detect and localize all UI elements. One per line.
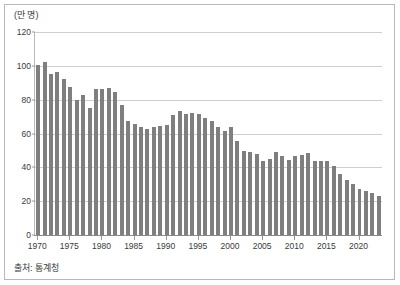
- bar: [88, 108, 92, 235]
- bar: [133, 124, 137, 235]
- bar-series: [35, 32, 382, 235]
- x-axis-tick-mark: [69, 236, 70, 240]
- bar: [364, 191, 368, 235]
- bar: [216, 127, 220, 235]
- bar: [332, 166, 336, 235]
- bar: [325, 161, 329, 235]
- bar: [358, 189, 362, 235]
- bar: [261, 161, 265, 235]
- bar: [300, 155, 304, 235]
- bar: [306, 153, 310, 235]
- y-axis-tick-label: 100: [17, 61, 31, 71]
- y-axis-tick-label: 40: [22, 162, 31, 172]
- bar: [81, 95, 85, 235]
- source-note: 출처: 통계청: [14, 261, 59, 274]
- x-axis-tick-label: 1990: [156, 241, 175, 251]
- bar: [229, 127, 233, 235]
- bar: [49, 74, 53, 235]
- x-axis-tick-label: 2005: [253, 241, 272, 251]
- bar: [113, 92, 117, 235]
- bar: [210, 121, 214, 235]
- x-axis-tick-label: 1980: [92, 241, 111, 251]
- bar: [377, 196, 381, 235]
- y-axis-unit-label: (만 명): [14, 8, 39, 21]
- x-axis-tick-mark: [198, 236, 199, 240]
- x-axis-tick-mark: [359, 236, 360, 240]
- x-axis-tick-mark: [326, 236, 327, 240]
- bar: [338, 174, 342, 235]
- bar: [43, 62, 47, 235]
- x-axis: 1970197519801985199019952000200520102015…: [34, 236, 382, 258]
- y-axis-tick-label: 20: [22, 196, 31, 206]
- y-axis-tick-label: 120: [17, 27, 31, 37]
- x-axis-tick-mark: [230, 236, 231, 240]
- bar: [145, 129, 149, 235]
- y-axis-tick-label: 80: [22, 95, 31, 105]
- bar: [345, 180, 349, 235]
- bar: [100, 89, 104, 235]
- bar: [94, 89, 98, 235]
- x-axis-tick-label: 1995: [188, 241, 207, 251]
- x-axis-tick-mark: [262, 236, 263, 240]
- bar: [370, 193, 374, 235]
- y-axis-tick-label: 60: [22, 129, 31, 139]
- x-axis-tick-label: 1985: [124, 241, 143, 251]
- y-axis-tick-label: 0: [26, 230, 31, 240]
- bar: [184, 114, 188, 235]
- x-axis-tick-label: 1975: [60, 241, 79, 251]
- bar: [55, 72, 59, 235]
- bar: [280, 156, 284, 235]
- bar: [75, 100, 79, 235]
- bar: [36, 65, 40, 235]
- bar: [68, 87, 72, 235]
- bar: [120, 105, 124, 235]
- x-axis-tick-mark: [134, 236, 135, 240]
- bar: [351, 184, 355, 235]
- plot-area: 020406080100120: [34, 32, 382, 236]
- bar: [158, 126, 162, 235]
- bar: [274, 152, 278, 235]
- bar: [139, 127, 143, 235]
- bar: [107, 88, 111, 235]
- x-axis-tick-label: 2000: [221, 241, 240, 251]
- bar: [242, 151, 246, 235]
- bar: [190, 113, 194, 235]
- bar: [171, 115, 175, 235]
- bar: [62, 79, 66, 235]
- x-axis-tick-label: 2010: [285, 241, 304, 251]
- bar: [203, 118, 207, 235]
- x-axis-tick-mark: [37, 236, 38, 240]
- bar: [235, 141, 239, 235]
- bar: [287, 160, 291, 235]
- x-axis-tick-label: 2020: [349, 241, 368, 251]
- bar: [248, 152, 252, 235]
- chart-figure: (만 명) 020406080100120 197019751980198519…: [0, 0, 400, 285]
- bar: [223, 131, 227, 235]
- bar: [293, 156, 297, 236]
- bar: [255, 154, 259, 235]
- x-axis-tick-label: 1970: [28, 241, 47, 251]
- x-axis-tick-mark: [166, 236, 167, 240]
- bar: [197, 114, 201, 235]
- bar: [152, 127, 156, 235]
- x-axis-tick-mark: [294, 236, 295, 240]
- x-axis-tick-mark: [101, 236, 102, 240]
- bar: [313, 161, 317, 235]
- bar: [165, 125, 169, 235]
- x-axis-tick-label: 2015: [317, 241, 336, 251]
- bar: [178, 111, 182, 235]
- bar: [126, 121, 130, 235]
- bar: [268, 159, 272, 235]
- bar: [319, 161, 323, 235]
